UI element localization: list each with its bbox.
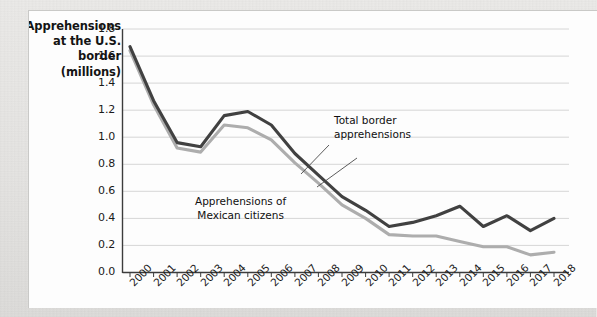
y-axis-tick-label: 0.2 bbox=[85, 238, 115, 251]
y-axis-tick-label: 0.4 bbox=[85, 211, 115, 224]
annotation-total-line-1: Total border bbox=[334, 114, 411, 128]
annotation-total-line-2: apprehensions bbox=[334, 128, 411, 142]
y-axis-tick-label: 0.8 bbox=[85, 157, 115, 170]
y-axis-tick-label: 0.0 bbox=[85, 265, 115, 278]
annotation-total-apprehensions: Total border apprehensions bbox=[334, 114, 411, 141]
annotation-mexican-citizens: Apprehensions of Mexican citizens bbox=[195, 195, 286, 222]
y-axis-tick-label: 0.6 bbox=[85, 184, 115, 197]
leader-line-total-apprehensions bbox=[301, 145, 329, 174]
annotation-mexican-line-1: Apprehensions of bbox=[195, 195, 286, 209]
leader-line-mexican-citizens bbox=[317, 158, 357, 187]
y-axis-tick-label: 1.8 bbox=[85, 22, 115, 35]
y-axis-tick-label: 1.0 bbox=[85, 130, 115, 143]
chart-panel: Apprehensions at the U.S. border (millio… bbox=[28, 10, 597, 308]
y-axis-tick-label: 1.2 bbox=[85, 103, 115, 116]
annotation-mexican-line-2: Mexican citizens bbox=[195, 209, 286, 223]
y-axis-tick-label: 1.6 bbox=[85, 49, 115, 62]
y-axis-tick-label: 1.4 bbox=[85, 76, 115, 89]
